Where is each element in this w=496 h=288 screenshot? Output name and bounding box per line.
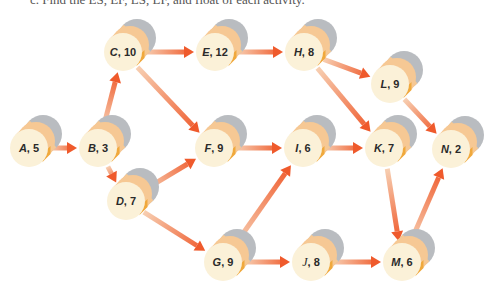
node-label: M, 6: [391, 256, 412, 268]
arrowhead-icon: [371, 256, 381, 268]
node-N: N, 2: [432, 116, 484, 168]
activity-duration: 3: [102, 142, 108, 154]
arrowhead-icon: [109, 72, 121, 83]
arrowhead-icon: [184, 46, 194, 58]
activity-network-diagram: A, 5B, 3C, 10E, 12H, 8L, 9F, 9I, 6K, 7N,…: [0, 0, 496, 288]
node-label: F, 9: [205, 142, 224, 154]
node-L: L, 9: [371, 51, 423, 103]
node-K: K, 7: [365, 115, 417, 167]
node-M: M, 6: [383, 229, 435, 281]
node-label: H, 8: [294, 46, 314, 58]
node-J: J, 8: [292, 229, 344, 281]
activity-name: D: [116, 195, 124, 207]
arrow-B-D: [106, 167, 117, 183]
node-label: C, 10: [110, 46, 136, 58]
node-E: E, 12: [196, 19, 248, 71]
node-label: J, 8: [302, 255, 320, 269]
arrowhead-icon: [353, 142, 363, 154]
activity-duration: 7: [130, 195, 136, 207]
node-C: C, 10: [104, 19, 156, 71]
activity-duration: 5: [33, 142, 39, 154]
arrowhead-icon: [280, 256, 290, 268]
arrowhead-icon: [67, 142, 77, 154]
activity-duration: 9: [227, 256, 233, 268]
arrow-K-M: [387, 169, 403, 242]
node-label: I, 6: [295, 142, 310, 154]
node-label: D, 7: [116, 195, 136, 207]
activity-duration: 6: [407, 256, 413, 268]
node-I: I, 6: [284, 115, 336, 167]
arrowhead-icon: [273, 46, 283, 58]
arrowhead-icon: [272, 142, 282, 154]
activity-duration: 10: [124, 46, 136, 58]
node-A: A, 5: [10, 115, 62, 167]
activity-duration: 9: [393, 78, 399, 90]
node-label: N, 2: [441, 143, 461, 155]
node-label: A, 5: [18, 142, 39, 154]
node-label: B, 3: [88, 142, 108, 154]
activity-name: B: [88, 142, 96, 154]
activity-duration: 8: [314, 256, 320, 268]
arrow-C-F: [137, 67, 199, 133]
activity-duration: 8: [308, 46, 314, 58]
activity-duration: 2: [455, 143, 461, 155]
node-label: G, 9: [213, 256, 234, 268]
activity-duration: 6: [305, 142, 311, 154]
node-label: E, 12: [202, 46, 228, 58]
node-B: B, 3: [79, 115, 131, 167]
node-G: G, 9: [204, 229, 256, 281]
arrow-H-L: [324, 59, 371, 78]
activity-duration: 12: [216, 46, 228, 58]
activity-duration: 7: [388, 142, 394, 154]
node-label: L, 9: [381, 78, 400, 90]
activity-name: A: [18, 142, 27, 154]
activity-duration: 9: [217, 142, 223, 154]
node-label: K, 7: [374, 142, 394, 154]
node-F: F, 9: [195, 115, 247, 167]
arrow-D-G: [144, 212, 205, 251]
